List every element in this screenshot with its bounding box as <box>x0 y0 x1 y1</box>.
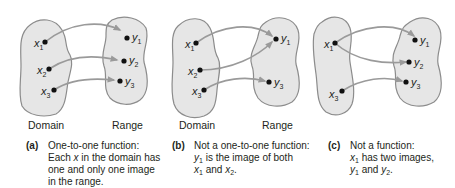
point-y3 <box>403 79 408 84</box>
caption-c-line-1: Not a function: <box>350 140 434 152</box>
caption-c-line-3: y1 and y2. <box>350 164 434 176</box>
caption-a-line-2: Each x in the domain has <box>48 152 160 164</box>
caption-c: (c) Not a function: x1 has two images, y… <box>328 140 448 188</box>
range-set-b <box>251 18 299 106</box>
point-y1 <box>273 36 278 41</box>
point-x2 <box>197 67 202 72</box>
caption-a: (a) One-to-one function: Each x in the d… <box>26 140 156 188</box>
caption-a-line-3: one and only one image <box>48 164 160 176</box>
point-x2 <box>46 66 51 71</box>
caption-b-line-3: x1 and x2. <box>194 164 310 176</box>
diagram-b: x1 x2 x3 y1 y3 <box>172 18 299 118</box>
diagram-a: x1 x2 x3 y1 y2 y3 <box>20 17 147 116</box>
caption-tag-c: (c) <box>328 140 340 152</box>
caption-a-line-1: One-to-one function: <box>48 140 160 152</box>
point-x3 <box>339 88 344 93</box>
point-y1 <box>412 37 417 42</box>
caption-tag-b: (b) <box>172 140 185 152</box>
caption-c-line-2: x1 has two images, <box>350 152 434 164</box>
domain-set-c <box>313 17 354 115</box>
point-y1 <box>124 35 129 40</box>
domain-label-a: Domain <box>28 119 64 131</box>
domain-label-b: Domain <box>179 119 215 131</box>
range-label-a: Range <box>112 119 143 131</box>
range-label-b: Range <box>262 119 293 131</box>
point-x3 <box>51 87 56 92</box>
point-y2 <box>121 58 126 63</box>
caption-tag-a: (a) <box>26 140 38 152</box>
caption-a-line-4: in the range. <box>48 176 160 188</box>
point-y2 <box>406 59 411 64</box>
caption-b: (b) Not a one-to-one function: y1 is the… <box>172 140 312 188</box>
domain-set-a <box>20 20 72 116</box>
point-x3 <box>201 87 206 92</box>
point-y3 <box>266 79 271 84</box>
point-y3 <box>117 78 122 83</box>
diagram-c: x1 x3 y1 y2 y3 <box>313 17 441 115</box>
caption-b-line-1: Not a one-to-one function: <box>194 140 310 152</box>
caption-b-line-2: y1 is the image of both <box>194 152 310 164</box>
